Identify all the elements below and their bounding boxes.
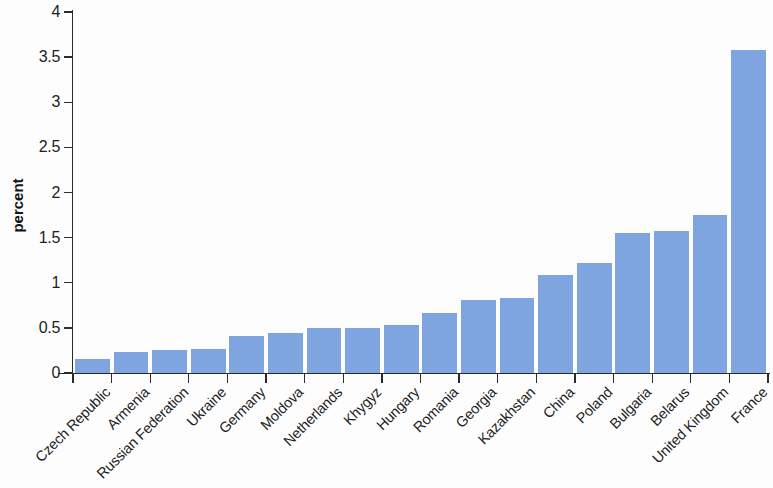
y-axis-title-text: percent [9,178,26,232]
x-axis-category-label: Germany [144,384,268,488]
x-axis-category-label: Khygyz [259,384,383,488]
x-axis-tick [227,374,228,383]
y-axis-tick-label: 1.5 [39,229,60,247]
y-axis-tick-label: 2 [51,184,60,202]
y-axis-tick [64,237,73,238]
x-axis-tick [497,374,498,383]
y-axis-title: percent [0,170,34,240]
x-axis-category-label: Bulgaria [530,384,654,488]
bar[interactable] [152,350,187,373]
bar[interactable] [461,300,496,373]
plot-area [73,12,768,373]
bar[interactable] [229,336,264,373]
y-axis-tick-label: 3 [51,93,60,111]
x-axis-category-label: Czech Republic [0,384,114,488]
x-axis-tick [304,374,305,383]
y-axis-tick [64,192,73,193]
bar[interactable] [693,215,728,373]
bar-chart-figure: percent 00.511.522.533.54 Czech Republic… [0,0,773,488]
x-axis-category-label: United Kingdom [607,384,731,488]
x-axis-category-label: Netherlands [221,384,345,488]
x-axis-tick [265,374,266,383]
x-axis-tick [767,374,768,383]
bar[interactable] [615,233,650,373]
x-axis-tick [188,374,189,383]
x-axis-category-label: Kazakhstan [414,384,538,488]
x-axis-tick [613,374,614,383]
y-axis-tick-label: 2.5 [39,138,60,156]
y-axis-tick [64,56,73,57]
bar[interactable] [307,328,342,373]
y-axis-tick-label: 0 [51,364,60,382]
y-axis-tick-label: 1 [51,274,60,292]
x-axis-category-label: France [646,384,770,488]
bar[interactable] [114,352,149,373]
bar[interactable] [654,231,689,373]
x-axis-tick [111,374,112,383]
y-axis-tick [64,102,73,103]
bar[interactable] [731,50,766,373]
x-axis-category-label: Armenia [28,384,152,488]
y-axis-tick [64,147,73,148]
y-axis-tick [64,282,73,283]
x-axis-category-label: Romania [337,384,461,488]
x-axis-tick [574,374,575,383]
x-axis-category-label: China [452,384,576,488]
bar[interactable] [422,313,457,373]
x-axis-category-label: Moldova [182,384,306,488]
x-axis-tick [729,374,730,383]
y-axis-tick-label: 0.5 [39,319,60,337]
x-axis-tick [343,374,344,383]
bar[interactable] [384,325,419,373]
bar[interactable] [191,349,226,373]
x-axis-category-label: Hungary [298,384,422,488]
bar[interactable] [268,333,303,373]
x-axis-category-label: Georgia [375,384,499,488]
bar[interactable] [75,359,110,373]
bar[interactable] [345,328,380,373]
bar[interactable] [538,275,573,373]
x-axis-category-label: Poland [491,384,615,488]
y-axis-tick [64,327,73,328]
bar[interactable] [500,298,535,373]
x-axis-tick [420,374,421,383]
y-axis-tick [64,11,73,12]
x-axis-tick [72,374,73,383]
x-axis-tick [536,374,537,383]
bar[interactable] [577,263,612,373]
x-axis-tick [150,374,151,383]
x-axis-tick [381,374,382,383]
y-axis-tick-label: 3.5 [39,48,60,66]
x-axis-tick [690,374,691,383]
x-axis-category-label: Ukraine [105,384,229,488]
x-axis-tick [458,374,459,383]
x-axis-tick [652,374,653,383]
y-axis-tick-label: 4 [51,3,60,21]
x-axis-category-label: Russian Federation [66,384,190,488]
x-axis-category-label: Belarus [568,384,692,488]
